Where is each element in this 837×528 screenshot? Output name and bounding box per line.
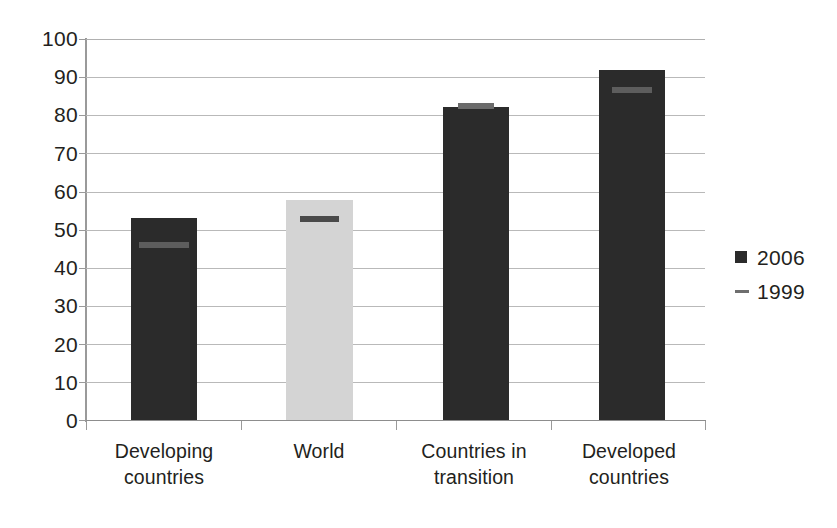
x-category-label-line-1: Countries in [399, 438, 549, 464]
y-tick-label-90: 90 [16, 66, 78, 87]
y-tick-label-40: 40 [16, 257, 78, 278]
y-tick-label-50: 50 [16, 219, 78, 240]
x-category-label-countries-in-transition: Countries in transition [399, 438, 549, 490]
x-tick-mark-2 [396, 421, 397, 430]
legend-swatch-dash-icon [735, 290, 757, 293]
y-tick-label-80: 80 [16, 104, 78, 125]
y-tick-label-100: 100 [16, 28, 78, 49]
y-tick-label-10: 10 [16, 372, 78, 393]
marker-developing-countries-1999 [139, 242, 189, 248]
legend-entry-1999: 1999 [735, 274, 835, 308]
legend-label-2006: 2006 [757, 247, 805, 268]
marker-world-1999 [300, 216, 339, 222]
x-tick-mark-3 [551, 421, 552, 430]
x-category-label-line-2: transition [399, 464, 549, 490]
x-tick-mark-4 [705, 421, 706, 430]
y-axis-tick-labels: 100 90 80 70 60 50 40 30 20 10 0 [8, 0, 78, 528]
bar-developed-countries-2006 [599, 70, 665, 420]
legend-label-1999: 1999 [757, 281, 805, 302]
bar-world-2006 [286, 200, 353, 420]
marker-developed-countries-1999 [612, 87, 652, 93]
x-tick-mark-1 [241, 421, 242, 430]
x-category-label-line-1: World [244, 438, 394, 464]
x-category-label-line-1: Developing [89, 438, 239, 464]
legend-entry-2006: 2006 [735, 240, 835, 274]
x-category-label-line-1: Developed [554, 438, 704, 464]
bar-chart-figure: 100 90 80 70 60 50 40 30 20 10 0 [0, 0, 837, 528]
x-category-label-line-2: countries [554, 464, 704, 490]
x-tick-mark-0 [86, 421, 87, 430]
x-category-label-developing-countries: Developing countries [89, 438, 239, 490]
y-tick-label-70: 70 [16, 143, 78, 164]
x-category-label-developed-countries: Developed countries [554, 438, 704, 490]
y-tick-label-20: 20 [16, 334, 78, 355]
chart-legend: 2006 1999 [735, 240, 835, 308]
y-tick-label-30: 30 [16, 295, 78, 316]
marker-countries-in-transition-1999 [458, 103, 494, 109]
bar-countries-in-transition-2006 [443, 107, 509, 420]
legend-swatch-square-icon [735, 251, 757, 263]
x-category-label-line-2: countries [89, 464, 239, 490]
x-category-label-world: World [244, 438, 394, 464]
gridline-100 [86, 39, 705, 40]
plot-area [86, 39, 705, 420]
y-tick-label-0: 0 [16, 410, 78, 431]
y-tick-label-60: 60 [16, 181, 78, 202]
bar-developing-countries-2006 [131, 218, 197, 420]
